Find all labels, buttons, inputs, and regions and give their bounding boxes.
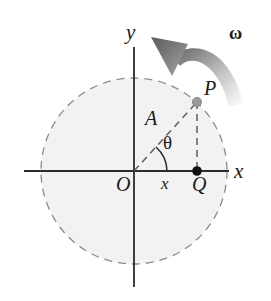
label-point-p: P <box>204 78 216 98</box>
axis-label-y: y <box>126 22 135 43</box>
diagram-canvas <box>0 0 271 301</box>
label-amplitude-a: A <box>145 108 157 128</box>
point-p-marker <box>192 97 201 106</box>
label-omega: ω <box>229 24 242 42</box>
axis-label-x: x <box>234 161 243 182</box>
label-theta: θ <box>163 133 172 152</box>
circular-motion-diagram: y x O P Q A x θ ω <box>0 0 271 301</box>
label-point-q: Q <box>192 174 206 194</box>
label-origin: O <box>116 174 130 194</box>
label-displacement-x: x <box>161 175 169 192</box>
